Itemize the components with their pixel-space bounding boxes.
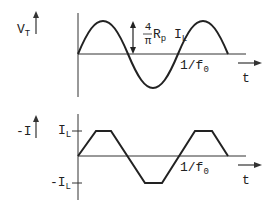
top-period-label: 1/f0 (180, 59, 209, 75)
amplitude-arrowhead-up-icon (130, 21, 136, 28)
bottom-x-label: t (242, 174, 250, 187)
amplitude-arrowhead-down-icon (130, 47, 136, 54)
top-x-label: t (242, 72, 250, 85)
amplitude-denominator: π (143, 36, 153, 47)
amplitude-label: Rp IL (153, 28, 187, 44)
bottom-period-label: 1/f0 (180, 161, 209, 177)
bottom-t-arrowhead-icon (254, 162, 262, 168)
bottom-y-arrowhead-icon (33, 115, 39, 122)
top-y-label: VT (17, 23, 30, 39)
top-y-arrowhead-icon (33, 11, 39, 18)
level-il-label: IL (58, 124, 71, 140)
waveform-diagram (0, 0, 278, 208)
top-t-arrowhead-icon (254, 60, 262, 66)
amplitude-numerator: 4 (143, 22, 153, 33)
level-neg-il-label: -IL (50, 176, 71, 192)
bottom-y-label: -I (16, 125, 32, 138)
